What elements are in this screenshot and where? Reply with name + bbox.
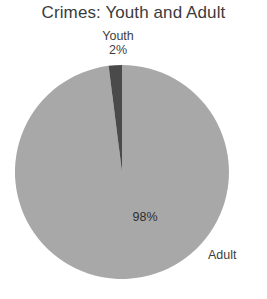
adult-slice-label: Adult (208, 248, 237, 262)
pie-slices (15, 65, 229, 279)
adult-slice-value: 98% (122, 210, 168, 224)
pie-chart-figure: Crimes: Youth and Adult Youth 2% 98% Adu… (0, 0, 267, 299)
adult-slice-callout: Adult (208, 249, 266, 263)
